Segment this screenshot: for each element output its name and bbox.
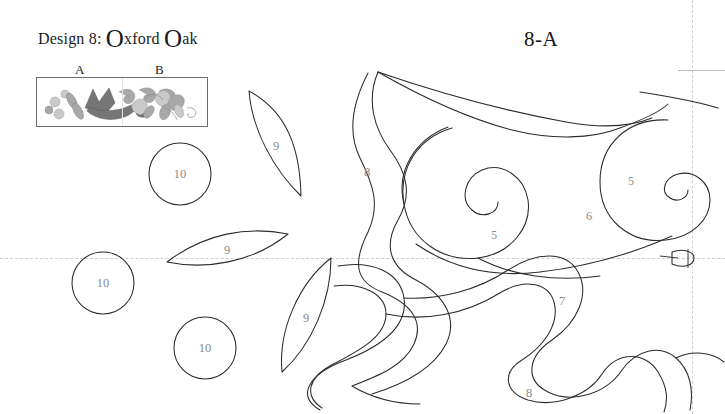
scroll-curl-right [600,120,710,241]
pattern-sheet: Design 8: Oxford Oak 8-A A B [0,0,725,414]
scroll-curl-left-edge [402,127,448,204]
vine-stem-inner-left [372,72,451,394]
piece-label-9-lower: 9 [303,311,309,325]
piece-label-5-right: 5 [628,175,634,187]
piece-label-10-bottom: 10 [199,341,212,355]
oak-body-inner-edge [478,258,600,278]
piece-label-8-lower: 8 [526,386,532,400]
top-sweep-arc-2 [378,72,668,137]
piece-label-9-upper: 9 [273,139,279,153]
serpentine-vine-right-tail [676,353,724,362]
piece-label-10-left: 10 [97,276,110,290]
piece-label-10-top: 10 [174,167,187,181]
top-sweep-arc-3 [640,92,718,108]
scroll-curl-left [403,128,529,258]
piece-label-8-upper: 8 [364,165,370,179]
piece-label-9-middle: 9 [224,243,230,257]
top-sweep-arc-1 [378,72,652,126]
acorn-bud-right-edge [672,250,694,266]
serpentine-vine-upper-edge [404,256,691,410]
oak-body-lower-edge [416,236,672,274]
piece-label-6: 6 [586,209,592,223]
piece-label-5-left: 5 [491,229,497,241]
vine-stem-outer-left [352,73,420,404]
piece-label-7: 7 [559,294,565,308]
pattern-lineart-layer: 10 10 10 9 9 9 8 8 5 5 6 7 [0,0,725,414]
